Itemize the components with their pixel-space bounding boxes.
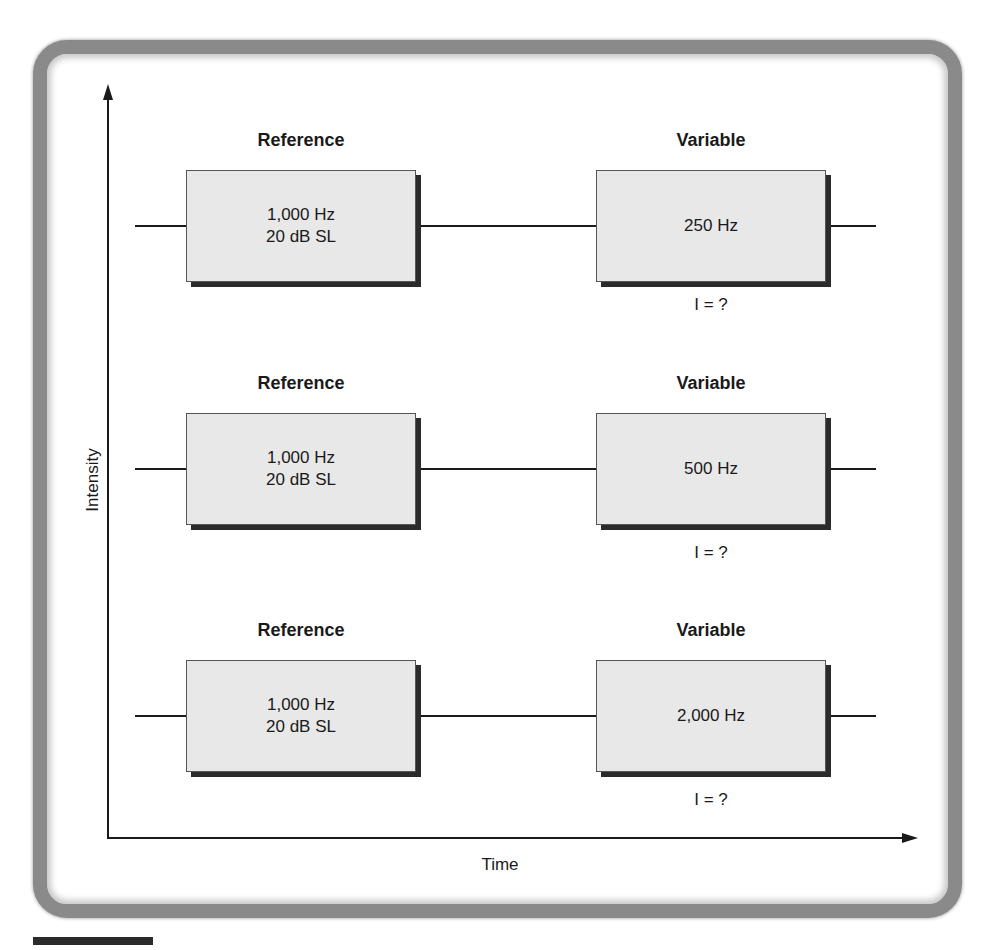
stimulus-row-3: Reference 1,000 Hz 20 dB SL Variable 2,0… xyxy=(0,660,992,820)
variable-heading: Variable xyxy=(596,620,826,641)
variable-heading: Variable xyxy=(596,130,826,151)
reference-tone-box: 1,000 Hz 20 dB SL xyxy=(186,413,416,525)
variable-heading: Variable xyxy=(596,373,826,394)
unknown-intensity: I = ? xyxy=(596,543,826,563)
reference-frequency: 1,000 Hz xyxy=(267,694,335,716)
reference-heading: Reference xyxy=(186,130,416,151)
reference-heading: Reference xyxy=(186,620,416,641)
x-axis-label: Time xyxy=(450,855,550,875)
reference-level: 20 dB SL xyxy=(266,469,336,491)
y-axis-arrow-icon xyxy=(103,84,113,100)
reference-level: 20 dB SL xyxy=(266,716,336,738)
reference-tone-box: 1,000 Hz 20 dB SL xyxy=(186,660,416,772)
variable-frequency: 250 Hz xyxy=(684,215,738,237)
unknown-intensity: I = ? xyxy=(596,790,826,810)
stimulus-row-1: Reference 1,000 Hz 20 dB SL Variable 250… xyxy=(0,170,992,330)
variable-tone-box: 500 Hz xyxy=(596,413,826,525)
variable-tone-box: 250 Hz xyxy=(596,170,826,282)
reference-tone-box: 1,000 Hz 20 dB SL xyxy=(186,170,416,282)
reference-heading: Reference xyxy=(186,373,416,394)
x-axis-arrow-icon xyxy=(902,833,918,843)
reference-level: 20 dB SL xyxy=(266,226,336,248)
variable-frequency: 500 Hz xyxy=(684,458,738,480)
x-axis xyxy=(107,837,910,839)
reference-frequency: 1,000 Hz xyxy=(267,447,335,469)
variable-tone-box: 2,000 Hz xyxy=(596,660,826,772)
figure-caption-bar xyxy=(33,937,153,945)
unknown-intensity: I = ? xyxy=(596,295,826,315)
reference-frequency: 1,000 Hz xyxy=(267,204,335,226)
stimulus-row-2: Reference 1,000 Hz 20 dB SL Variable 500… xyxy=(0,413,992,573)
variable-frequency: 2,000 Hz xyxy=(677,705,745,727)
